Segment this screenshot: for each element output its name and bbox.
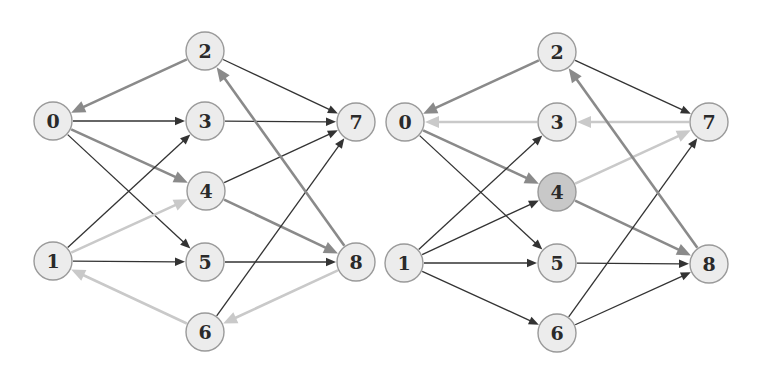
edge-line xyxy=(82,59,187,107)
node-label: 8 xyxy=(349,251,362,273)
edge-8-to-2 xyxy=(217,67,345,245)
edge-3-to-0 xyxy=(425,116,537,128)
edge-1-to-5 xyxy=(73,258,185,266)
node-0: 0 xyxy=(386,103,424,141)
node-label: 3 xyxy=(550,111,563,133)
node-label: 2 xyxy=(550,41,563,63)
edge-3-to-7 xyxy=(225,118,336,126)
edge-6-to-8 xyxy=(575,272,691,324)
node-5: 5 xyxy=(186,243,224,281)
node-1: 1 xyxy=(34,242,72,280)
edge-2-to-0 xyxy=(423,60,539,113)
edge-line xyxy=(419,141,537,249)
edge-line xyxy=(422,271,531,321)
node-8: 8 xyxy=(690,245,728,283)
edge-line xyxy=(224,200,327,249)
node-4: 4 xyxy=(538,173,576,211)
edge-8-to-6 xyxy=(223,270,338,323)
edge-1-to-5 xyxy=(424,259,537,267)
node-label: 6 xyxy=(550,322,563,344)
arrowhead-icon xyxy=(577,116,591,128)
edge-0-to-4 xyxy=(71,129,188,182)
edge-5-to-8 xyxy=(577,260,689,268)
edge-0-to-3 xyxy=(73,117,185,125)
edge-line xyxy=(71,204,177,252)
nodes: 012345678 xyxy=(34,32,375,351)
edge-7-to-3 xyxy=(577,116,689,128)
edge-1-to-4 xyxy=(422,200,539,254)
edge-line xyxy=(434,60,539,108)
node-0: 0 xyxy=(34,102,72,140)
edge-6-to-1 xyxy=(71,269,187,323)
node-2: 2 xyxy=(538,33,576,71)
node-label: 4 xyxy=(199,180,212,202)
arrowhead-icon xyxy=(175,117,185,125)
node-label: 1 xyxy=(397,252,410,274)
arrowhead-icon xyxy=(217,67,230,82)
arrowhead-icon xyxy=(679,260,689,268)
arrowhead-icon xyxy=(326,118,336,126)
edge-line xyxy=(225,121,328,122)
node-6: 6 xyxy=(186,313,224,351)
node-label: 6 xyxy=(198,321,211,343)
edge-line xyxy=(223,60,331,111)
edge-1-to-4 xyxy=(71,199,188,252)
node-label: 3 xyxy=(198,110,211,132)
node-label: 2 xyxy=(198,40,211,62)
edge-line xyxy=(423,130,528,178)
node-1: 1 xyxy=(385,244,423,282)
node-3: 3 xyxy=(538,103,576,141)
arrowhead-icon xyxy=(335,138,344,149)
node-8: 8 xyxy=(337,243,375,281)
edge-2-to-0 xyxy=(71,59,187,112)
edge-0-to-4 xyxy=(423,130,539,183)
edge-line xyxy=(569,145,693,317)
edge-line xyxy=(73,261,177,262)
edge-line xyxy=(82,275,187,324)
node-label: 5 xyxy=(198,251,211,273)
edge-line xyxy=(575,276,683,325)
edge-1-to-6 xyxy=(422,271,539,324)
edge-line xyxy=(224,134,330,183)
edge-line xyxy=(575,201,680,251)
edge-6-to-7 xyxy=(217,138,345,316)
arrowhead-icon xyxy=(326,258,336,266)
node-label: 7 xyxy=(349,111,362,133)
node-3: 3 xyxy=(186,102,224,140)
edge-2-to-7 xyxy=(223,60,338,114)
edge-line xyxy=(234,270,338,318)
node-label: 4 xyxy=(550,181,563,203)
right-graph: 012345678 xyxy=(385,33,728,352)
left-graph: 012345678 xyxy=(34,32,375,351)
edge-line xyxy=(217,145,340,316)
graph-diagram: 012345678 012345678 xyxy=(0,0,759,370)
node-7: 7 xyxy=(337,103,375,141)
arrowhead-icon xyxy=(527,259,537,267)
edge-line xyxy=(420,136,537,244)
edge-line xyxy=(577,263,681,264)
node-label: 8 xyxy=(702,253,715,275)
arrowhead-icon xyxy=(175,258,185,266)
edge-line xyxy=(422,204,531,255)
node-6: 6 xyxy=(538,314,576,352)
node-label: 1 xyxy=(46,250,59,272)
arrowhead-icon xyxy=(688,138,697,149)
edge-line xyxy=(224,77,345,246)
arrowhead-icon xyxy=(569,68,582,83)
edge-5-to-8 xyxy=(225,258,336,266)
node-7: 7 xyxy=(690,103,728,141)
node-4: 4 xyxy=(187,172,225,210)
edge-line xyxy=(575,60,683,110)
nodes: 012345678 xyxy=(385,33,728,352)
edge-line xyxy=(575,135,680,183)
node-label: 0 xyxy=(46,110,59,132)
edge-6-to-7 xyxy=(569,138,698,317)
node-2: 2 xyxy=(186,32,224,70)
node-5: 5 xyxy=(538,244,576,282)
edge-2-to-7 xyxy=(575,60,691,113)
edge-line xyxy=(71,129,177,177)
arrowhead-icon xyxy=(425,116,439,128)
node-label: 0 xyxy=(398,111,411,133)
node-label: 5 xyxy=(550,252,563,274)
edge-8-to-2 xyxy=(569,68,698,247)
